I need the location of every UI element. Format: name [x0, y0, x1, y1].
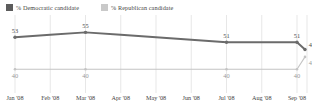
x-axis-tick-label: Feb '08	[41, 94, 59, 101]
data-point	[303, 48, 306, 51]
chart-legend: % Democratic candidate % Republican cand…	[0, 0, 312, 14]
legend-swatch-democratic-icon	[6, 4, 13, 11]
data-point	[84, 31, 87, 34]
x-axis-tick-label: Sep '08	[288, 94, 306, 101]
data-point	[13, 36, 16, 39]
legend-swatch-republican-icon	[101, 4, 108, 11]
x-axis-tick-label: Jul '08	[218, 94, 234, 101]
data-point	[295, 40, 298, 43]
data-point	[225, 40, 228, 43]
chart-x-axis: Jan '08Feb '08Mar '08Apr '08May '08Jun '…	[0, 92, 312, 110]
x-axis-tick-label: Aug '08	[252, 94, 272, 101]
legend-label-republican: % Republican candidate	[111, 4, 173, 11]
democratic-value-label: 51	[294, 32, 300, 39]
democratic-value-label: 53	[12, 27, 18, 34]
data-point	[304, 56, 307, 59]
legend-label-democratic: % Democratic candidate	[16, 4, 79, 11]
x-axis-tick-label: May '08	[146, 94, 166, 101]
data-point	[296, 68, 299, 71]
republican-value-label: 40	[12, 72, 18, 79]
x-axis-tick-label: Mar '08	[76, 94, 95, 101]
republican-value-label: 45	[309, 59, 312, 66]
democratic-value-label: 55	[82, 22, 88, 29]
legend-item-republican: % Republican candidate	[101, 4, 173, 11]
democratic-value-label: 51	[223, 32, 229, 39]
republican-value-label: 40	[223, 72, 229, 79]
data-point	[84, 68, 87, 71]
x-axis-tick-label: Apr '08	[112, 94, 130, 101]
legend-item-democratic: % Democratic candidate	[6, 4, 79, 11]
republican-value-label: 40	[294, 72, 300, 79]
line-chart-svg	[0, 15, 312, 93]
x-axis-tick-label: Jun '08	[183, 94, 200, 101]
data-point	[225, 68, 228, 71]
x-axis-tick-label: Jan '08	[6, 94, 23, 101]
data-point	[14, 68, 17, 71]
republican-value-label: 40	[82, 72, 88, 79]
democratic-value-label: 48	[309, 41, 312, 48]
chart-plot-area: 53555151484040404045	[0, 15, 312, 93]
